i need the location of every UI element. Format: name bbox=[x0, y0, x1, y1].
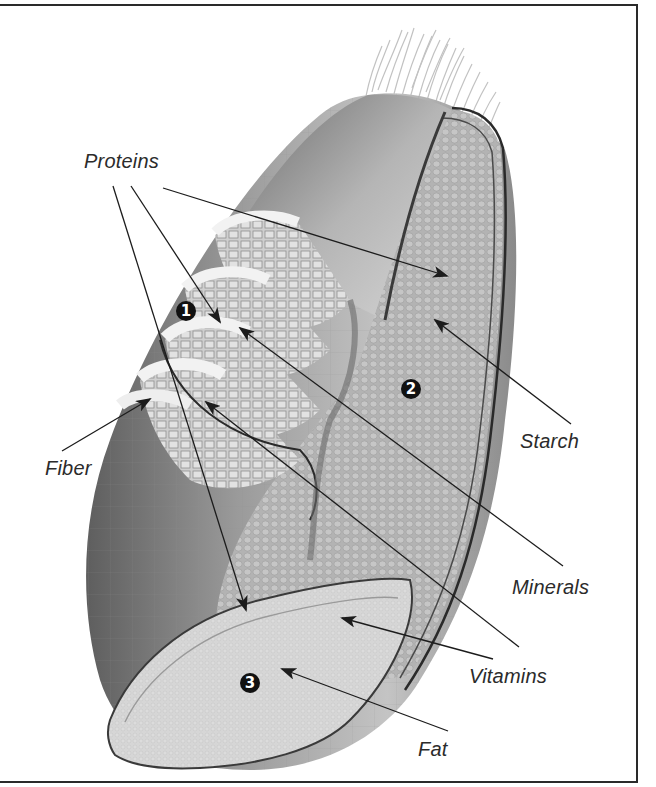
marker-bran-1: 1 bbox=[176, 301, 196, 321]
marker-endosperm-2: 2 bbox=[401, 379, 421, 399]
label-proteins: Proteins bbox=[84, 150, 159, 173]
label-fiber: Fiber bbox=[45, 457, 92, 480]
label-vitamins: Vitamins bbox=[469, 665, 547, 688]
kernel-illustration bbox=[0, 0, 656, 787]
label-minerals: Minerals bbox=[512, 576, 589, 599]
marker-germ-3: 3 bbox=[240, 673, 260, 693]
label-starch: Starch bbox=[520, 430, 579, 453]
kernel-diagram: Proteins Fiber Starch Minerals Vitamins … bbox=[0, 0, 656, 787]
label-fat: Fat bbox=[418, 738, 448, 761]
